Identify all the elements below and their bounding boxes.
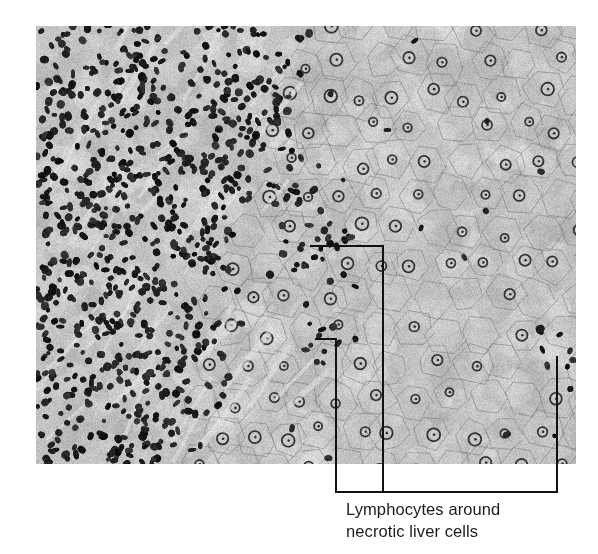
figure: Lymphocytes around necrotic liver cells — [0, 0, 598, 554]
annotation-label-line-1: Lymphocytes around — [346, 498, 500, 520]
tissue-texture — [36, 26, 576, 464]
liver-histology-micrograph — [36, 26, 576, 464]
annotation-label: Lymphocytes around necrotic liver cells — [346, 498, 500, 542]
annotation-label-line-2: necrotic liver cells — [346, 520, 500, 542]
